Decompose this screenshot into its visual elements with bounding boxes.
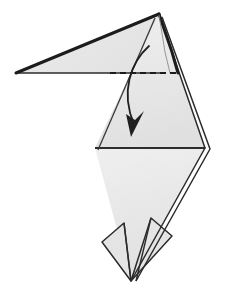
- origami-figure: [0, 0, 230, 291]
- origami-diagram-canvas: [0, 0, 230, 291]
